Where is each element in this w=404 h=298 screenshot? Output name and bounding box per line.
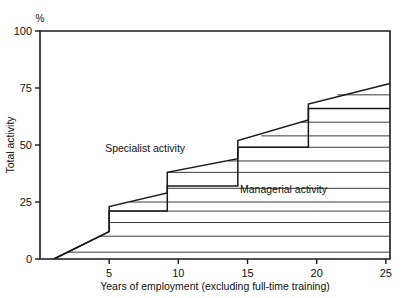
y-tick-label: 100 — [14, 25, 32, 37]
x-axis-title: Years of employment (excluding full-time… — [100, 280, 330, 292]
x-axis-tick-labels: 510152025 — [106, 267, 392, 279]
x-tick-label: 20 — [311, 267, 323, 279]
step-area-chart: 0255075100 510152025 % Total activity Ye… — [0, 0, 404, 298]
series-annotation: Specialist activity — [105, 142, 186, 154]
x-tick-label: 25 — [380, 267, 392, 279]
y-tick-label: 25 — [20, 196, 32, 208]
y-tick-label: 75 — [20, 82, 32, 94]
y-tick-label: 0 — [26, 253, 32, 265]
plot-frame — [40, 31, 390, 259]
y-axis-unit-label: % — [36, 13, 45, 24]
chart-container: 0255075100 510152025 % Total activity Ye… — [0, 0, 404, 298]
y-axis-tick-labels: 0255075100 — [14, 25, 32, 265]
hatch-lines — [69, 95, 390, 252]
x-tick-label: 15 — [241, 267, 253, 279]
series-annotations: Specialist activityManagerial activity — [105, 142, 328, 195]
y-axis-title: Total activity — [4, 116, 16, 174]
series-annotation: Managerial activity — [240, 183, 328, 195]
x-tick-label: 10 — [172, 267, 184, 279]
total-activity-line — [54, 83, 390, 259]
y-tick-label: 50 — [20, 139, 32, 151]
x-tick-label: 5 — [106, 267, 112, 279]
